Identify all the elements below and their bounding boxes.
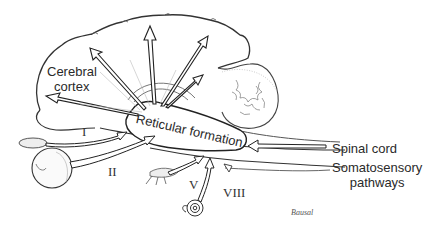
label-spinal-cord: Spinal cord (332, 141, 397, 156)
label-somatosensory-line1: Somatosensory (332, 160, 422, 175)
eye (32, 148, 72, 188)
somatosensory-line (225, 168, 330, 171)
label-nerve-V: V (189, 177, 198, 193)
label-cerebral: Cerebral (47, 64, 97, 79)
label-cortex: cortex (47, 79, 97, 94)
label-nerve-II: II (108, 164, 117, 180)
trigeminal-arrow (168, 156, 204, 175)
olfactory-bulb (19, 138, 47, 148)
cerebral-cortex-outline (37, 15, 250, 110)
artist-signature: Bausal (291, 208, 313, 217)
label-cerebral-cortex: Cerebral cortex (47, 64, 97, 94)
label-somatosensory: Somatosensory pathways (332, 160, 422, 190)
label-nerve-I: I (82, 124, 86, 140)
label-somatosensory-line2: pathways (332, 175, 422, 190)
label-nerve-VIII: VIII (223, 185, 245, 201)
cochlea (183, 200, 203, 216)
spinal-cord-lower-edge (150, 148, 345, 167)
cerebellum (218, 64, 278, 129)
diagram-canvas (0, 0, 431, 229)
vestibulocochlear-arrow (198, 158, 214, 202)
olfactory-tract-arrow (46, 132, 127, 147)
